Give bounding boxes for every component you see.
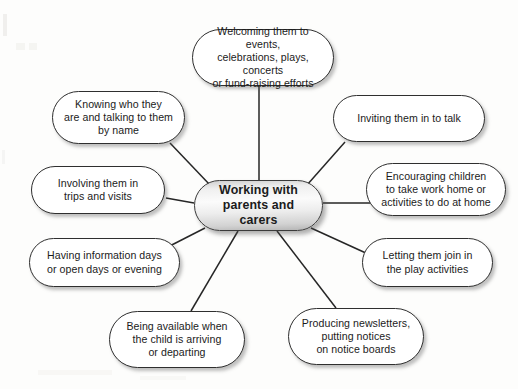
branch-node-label: Encouraging children to take work home o…: [381, 170, 491, 210]
branch-node-being-available[interactable]: Being available when the child is arrivi…: [109, 311, 245, 368]
branch-node-label: Letting them join in the play activities: [383, 249, 473, 275]
branch-node-producing[interactable]: Producing newsletters, putting notices o…: [288, 308, 424, 365]
edge-center-to-involving: [166, 198, 194, 203]
edge-center-to-inviting: [307, 142, 345, 185]
branch-node-label: Having information days or open days or …: [47, 249, 162, 275]
center-node-label: Working with parents and carers: [204, 183, 313, 228]
branch-node-label: Welcoming them to events, celebrations, …: [202, 25, 324, 91]
edge-center-to-being: [191, 231, 238, 311]
edge-center-to-knowing: [170, 143, 210, 185]
branch-node-welcoming[interactable]: Welcoming them to events, celebrations, …: [192, 29, 334, 86]
branch-node-label: Inviting them in to talk: [357, 112, 461, 125]
branch-node-involving[interactable]: Involving them in trips and visits: [31, 166, 165, 214]
branch-node-label: Producing newsletters, putting notices o…: [302, 317, 410, 357]
branch-node-label: Involving them in trips and visits: [58, 177, 138, 203]
edge-center-to-letting: [311, 228, 368, 254]
branch-node-knowing[interactable]: Knowing who they are and talking to them…: [52, 91, 185, 144]
branch-node-label: Being available when the child is arrivi…: [126, 320, 227, 360]
branch-node-letting[interactable]: Letting them join in the play activities: [362, 238, 493, 287]
center-node-working-with-parents-and-carers[interactable]: Working with parents and carers: [194, 180, 323, 231]
branch-node-encouraging[interactable]: Encouraging children to take work home o…: [366, 163, 506, 216]
branch-node-label: Knowing who they are and talking to them…: [64, 98, 173, 138]
edge-center-to-producing: [277, 231, 336, 308]
branch-node-having-information-days[interactable]: Having information days or open days or …: [29, 238, 180, 287]
mindmap-canvas: Working with parents and carers Welcomin…: [0, 0, 518, 389]
branch-node-inviting[interactable]: Inviting them in to talk: [333, 95, 485, 142]
